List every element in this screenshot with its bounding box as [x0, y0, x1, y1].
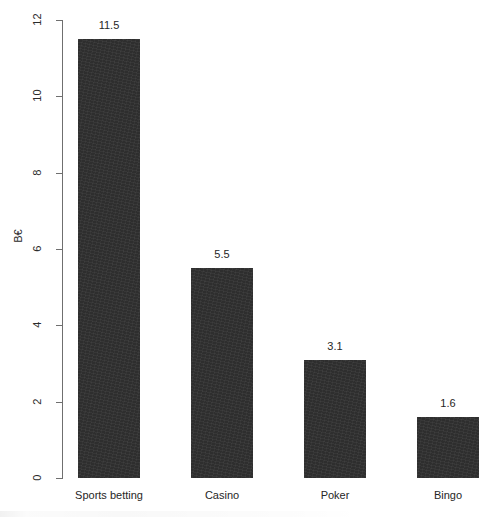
bar-value-poker: 3.1: [304, 341, 366, 352]
scan-artifact: [0, 511, 491, 517]
bar-bingo: [417, 417, 479, 478]
y-tick-label-2: 2: [32, 389, 43, 415]
y-tick-mark-4: [56, 325, 63, 326]
category-label-poker: Poker: [274, 489, 396, 501]
y-tick-label-8: 8: [32, 160, 43, 186]
bar-chart: B€ 12 10 8 6 4 2 0 11.5 Sports betting 5…: [0, 0, 491, 517]
y-tick-label-12: 12: [32, 7, 43, 33]
y-axis-title: B€: [12, 224, 24, 248]
bar-value-sports-betting: 11.5: [78, 20, 140, 31]
y-tick-label-0: 0: [32, 465, 43, 491]
y-tick-label-10: 10: [32, 83, 43, 109]
bar-sports-betting: [78, 39, 140, 478]
bar-casino: [191, 268, 253, 478]
category-label-casino: Casino: [161, 489, 283, 501]
y-tick-mark-6: [56, 249, 63, 250]
y-tick-label-4: 4: [32, 312, 43, 338]
y-tick-mark-0: [56, 478, 63, 479]
bar-value-casino: 5.5: [191, 249, 253, 260]
y-tick-mark-10: [56, 96, 63, 97]
y-tick-label-6: 6: [32, 236, 43, 262]
y-tick-mark-8: [56, 173, 63, 174]
category-label-sports-betting: Sports betting: [48, 489, 170, 501]
y-tick-mark-12: [56, 20, 63, 21]
bar-poker: [304, 360, 366, 478]
category-label-bingo: Bingo: [387, 489, 491, 501]
bar-value-bingo: 1.6: [417, 398, 479, 409]
y-tick-mark-2: [56, 402, 63, 403]
